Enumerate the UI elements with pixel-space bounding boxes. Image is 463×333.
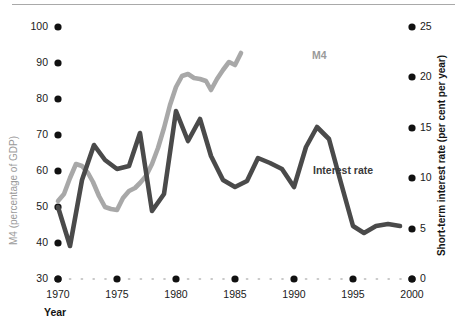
left-axis-tick-dots — [54, 23, 61, 282]
y-axis-left-title: M4 (percentage of GDP) — [8, 116, 19, 266]
xtick-1975: 1975 — [95, 288, 139, 300]
y-axis-right-title: Short-term interest rate (per cent per y… — [436, 16, 447, 296]
series-annotation-m4: M4 — [312, 49, 327, 61]
xtick-1985: 1985 — [213, 288, 257, 300]
ytick-left-70: 70 — [22, 128, 48, 140]
xtick-1970: 1970 — [36, 288, 80, 300]
ytick-left-80: 80 — [22, 92, 48, 104]
ytick-left-50: 50 — [22, 200, 48, 212]
xtick-1980: 1980 — [154, 288, 198, 300]
chart-plot-area — [0, 0, 463, 333]
x-axis-tick-dots — [54, 275, 415, 282]
ytick-left-30: 30 — [22, 272, 48, 284]
ytick-left-40: 40 — [22, 236, 48, 248]
xtick-1990: 1990 — [272, 288, 316, 300]
xtick-1995: 1995 — [331, 288, 375, 300]
series-annotation-interest-rate: Interest rate — [313, 164, 373, 176]
right-axis-tick-dots — [408, 23, 415, 282]
chart-figure: 100 90 80 70 60 50 40 30 25 20 15 10 5 0… — [0, 0, 463, 333]
ytick-left-90: 90 — [22, 56, 48, 68]
ytick-left-60: 60 — [22, 164, 48, 176]
series-line-interest-rate — [58, 111, 400, 246]
x-axis-title: Year — [44, 306, 66, 318]
ytick-left-100: 100 — [22, 20, 48, 32]
xtick-2000: 2000 — [390, 288, 434, 300]
